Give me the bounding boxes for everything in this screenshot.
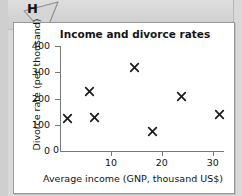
data-point-marker [176,91,187,102]
x-axis-tick [213,151,214,156]
x-axis-line [60,151,224,152]
data-point-marker [84,86,95,97]
annotation-marker-label: H [27,2,38,16]
plot-area [60,47,223,151]
left-margin-strip [0,0,8,196]
x-axis-tick-label: 20 [150,157,174,168]
x-axis-title: Average income (GNP, thousand US$) [14,173,234,184]
data-point-marker [89,112,100,123]
x-axis-tick [162,151,163,156]
data-point-marker [147,126,158,137]
screen-root: H Income and divorce rates 0100200300400… [0,0,242,196]
data-point-marker [214,109,225,120]
chart-title: Income and divorce rates [14,28,234,40]
x-axis-tick-label: 10 [99,157,123,168]
data-point-marker [62,113,73,124]
chart-card: Income and divorce rates 0100200300400 0… [13,22,235,194]
y-axis-title: Divorce rate (per thousand) [31,17,42,153]
data-point-marker [129,62,140,73]
x-axis-tick [111,151,112,156]
x-axis-tick-label: 30 [201,157,225,168]
